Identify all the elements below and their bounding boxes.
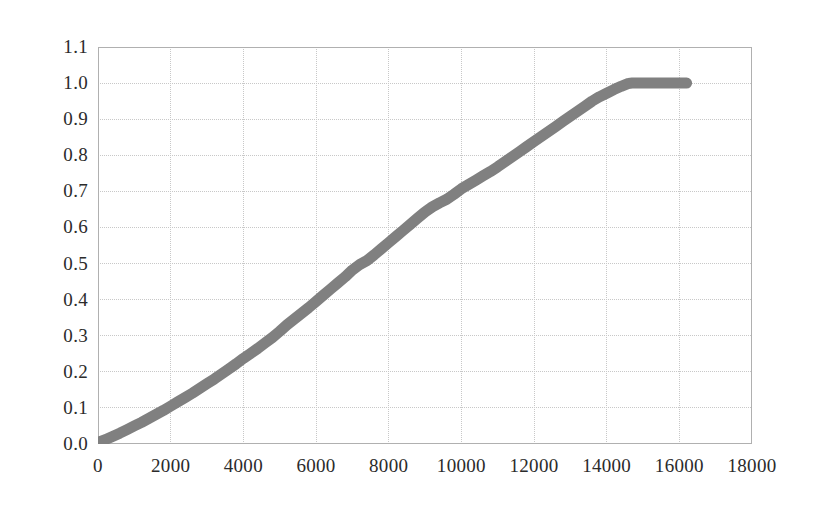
x-axis-tick-label: 14000 (582, 456, 631, 475)
x-axis-tick-label: 0 (93, 456, 103, 475)
x-axis-tick-label: 6000 (296, 456, 335, 475)
x-axis-tick-labels: 0200040006000800010000120001400016000180… (0, 0, 815, 511)
x-axis-tick-label: 4000 (224, 456, 263, 475)
x-axis-tick-label: 10000 (437, 456, 486, 475)
x-axis-tick-label: 8000 (369, 456, 408, 475)
x-axis-tick-label: 16000 (655, 456, 704, 475)
chart-container: 0.00.10.20.30.40.50.60.70.80.91.01.1 020… (0, 0, 815, 511)
x-axis-tick-label: 2000 (151, 456, 190, 475)
x-axis-tick-label: 12000 (510, 456, 559, 475)
x-axis-tick-label: 18000 (728, 456, 777, 475)
